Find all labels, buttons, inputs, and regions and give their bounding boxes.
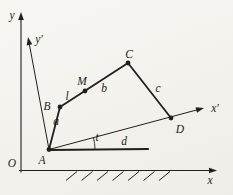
point-C-label: C <box>125 48 133 60</box>
point-M <box>83 89 88 94</box>
hatch-stroke <box>97 172 108 181</box>
y-axis-label: y <box>8 9 15 22</box>
point-M-label: M <box>76 75 88 87</box>
link-c-label: c <box>155 82 160 94</box>
hatch-stroke <box>66 172 77 181</box>
hatch-stroke <box>159 172 170 181</box>
links-group <box>49 63 171 150</box>
point-B <box>58 105 63 110</box>
link-c <box>128 63 171 118</box>
link-b <box>60 63 128 107</box>
hatch-stroke <box>82 172 93 181</box>
link-d <box>49 149 148 150</box>
x-axis-label: x <box>206 174 213 186</box>
linkage-diagram: xyx′y′OalbcdABMCDt <box>0 0 233 195</box>
link-a-label: a <box>53 115 59 127</box>
point-D-label: D <box>175 123 185 135</box>
point-A-label: A <box>37 154 46 166</box>
x-prime-axis-arrowhead <box>196 107 204 112</box>
hatch-stroke <box>144 172 155 181</box>
point-D <box>169 116 174 121</box>
x-axis-arrowhead <box>209 168 217 174</box>
x-prime-axis-label: x′ <box>210 102 219 114</box>
link-a <box>49 107 60 150</box>
hatch-stroke <box>128 172 139 181</box>
hatch-stroke <box>113 172 124 181</box>
y-prime-axis-arrowhead <box>27 37 33 45</box>
link-b-label: b <box>101 82 107 94</box>
figure-svg: xyx′y′OalbcdABMCDt <box>0 0 233 195</box>
ground-hatching <box>66 172 170 181</box>
link-d-label: d <box>121 135 127 147</box>
link-b-label: l <box>65 90 68 102</box>
y-prime-axis-line <box>29 43 49 150</box>
point-A <box>47 147 52 152</box>
y-prime-axis-label: y′ <box>34 33 43 46</box>
point-B-label: B <box>43 100 50 112</box>
y-axis-arrowhead <box>18 12 24 20</box>
point-C <box>126 61 131 66</box>
origin-label: O <box>8 157 17 169</box>
angle-t-label: t <box>95 131 99 143</box>
